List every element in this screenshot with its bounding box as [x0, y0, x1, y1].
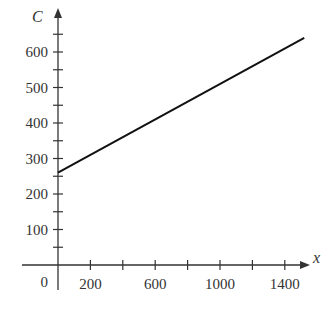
y-tick-label: 100 — [26, 222, 49, 238]
x-axis-arrow-icon — [300, 261, 310, 269]
series-line — [58, 38, 304, 173]
x-tick-label: 600 — [144, 276, 167, 292]
x-axis-label: x — [312, 249, 320, 266]
chart: 200600100014001002003004005006000xC — [0, 0, 328, 312]
y-axis-arrow-icon — [54, 8, 62, 18]
y-axis-label: C — [32, 8, 43, 25]
axes: 200600100014001002003004005006000xC — [22, 8, 320, 292]
y-tick-label: 400 — [26, 115, 49, 131]
y-tick-label: 200 — [26, 186, 49, 202]
y-tick-label: 500 — [26, 80, 49, 96]
plot-area — [58, 38, 304, 173]
y-tick-label: 600 — [26, 44, 49, 60]
origin-label: 0 — [41, 274, 49, 290]
y-tick-label: 300 — [26, 151, 49, 167]
x-tick-label: 1000 — [205, 276, 235, 292]
x-tick-label: 200 — [79, 276, 102, 292]
x-tick-label: 1400 — [270, 276, 300, 292]
